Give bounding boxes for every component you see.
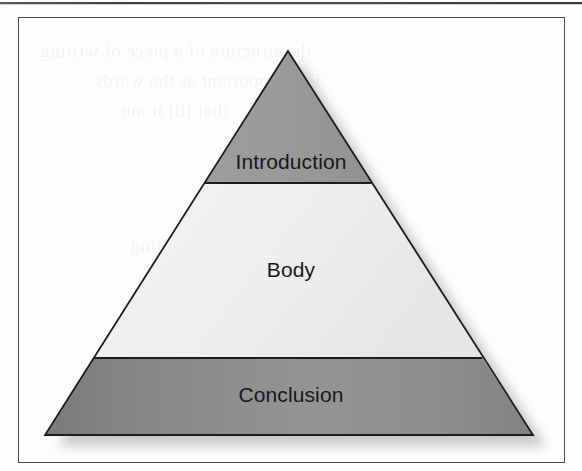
band-label-body: Body [0, 258, 582, 282]
pyramid-diagram: Introduction Body Conclusion [0, 0, 582, 471]
band-label-introduction: Introduction [0, 150, 582, 174]
scanned-page: the structure of a piece of writing is a… [0, 0, 582, 471]
band-label-conclusion: Conclusion [0, 383, 582, 407]
